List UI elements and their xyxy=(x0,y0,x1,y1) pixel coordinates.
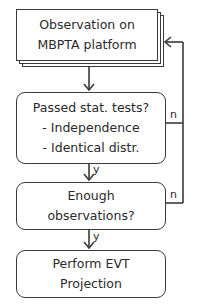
label-no-enough: n xyxy=(170,189,177,201)
label-yes-tests: y xyxy=(93,164,100,176)
connectors xyxy=(0,0,202,307)
label-no-tests: n xyxy=(170,109,177,121)
label-yes-enough: y xyxy=(93,231,100,243)
